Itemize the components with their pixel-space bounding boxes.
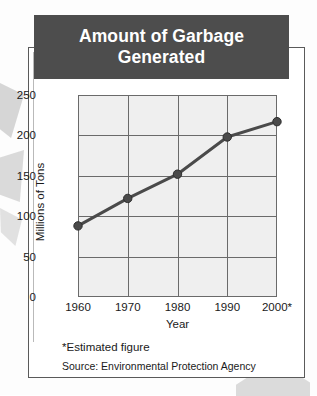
card-inner-rule (33, 52, 34, 342)
source-note: Source: Environmental Protection Agency (62, 360, 256, 372)
background-watermark-shape (0, 208, 22, 246)
chart-card (28, 47, 305, 378)
background-watermark-shape (0, 78, 24, 138)
background-watermark-shape (0, 150, 24, 202)
chart-title-banner: Amount of Garbage Generated (34, 15, 289, 79)
estimated-figure-note: *Estimated figure (62, 341, 150, 353)
